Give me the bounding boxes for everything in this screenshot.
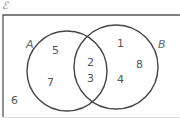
region-b-only-value: 8 (136, 58, 143, 71)
region-a-only-value: 5 (52, 44, 59, 57)
region-b-only-value: 1 (117, 37, 124, 50)
region-neither-value: 6 (11, 94, 18, 107)
venn-diagram: A B 5 7 2 3 1 8 4 6 (0, 0, 180, 118)
set-b-label: B (158, 38, 166, 51)
region-intersection-value: 3 (87, 72, 94, 85)
set-a-circle (27, 31, 107, 111)
region-intersection-value: 2 (87, 56, 94, 69)
region-a-only-value: 7 (47, 76, 54, 89)
region-b-only-value: 4 (117, 73, 124, 86)
set-a-label: A (25, 38, 34, 51)
